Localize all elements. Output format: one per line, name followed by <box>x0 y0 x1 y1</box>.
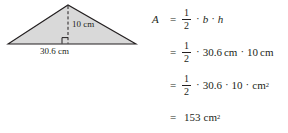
squared-unit-3: cm2 <box>252 79 269 91</box>
height-unit: cm <box>258 46 273 58</box>
fraction-denominator: 2 <box>183 20 190 31</box>
equals-sign-1: = <box>166 13 180 25</box>
multiply-dot-2b: · <box>237 45 247 57</box>
area-variable: A <box>152 13 166 25</box>
area-computation: A = 1 2 · b · h = 1 2 · 30.6 cm · <box>152 0 288 133</box>
multiply-dot-1a: · <box>193 12 203 24</box>
base-value: 30.6 <box>203 46 222 58</box>
fraction-numerator: 1 <box>183 41 190 52</box>
equation-line-2: = 1 2 · 30.6 cm · 10 cm <box>152 39 274 65</box>
equals-sign-4: = <box>166 111 180 123</box>
multiply-dot-3a: · <box>193 78 203 90</box>
multiply-dot-3c: · <box>243 78 253 90</box>
one-half-fraction-2: 1 2 <box>182 41 191 64</box>
base-value: 30.6 <box>203 79 222 91</box>
equation-line-3: = 1 2 · 30.6 · 10 · cm2 <box>152 72 269 98</box>
fraction-denominator: 2 <box>183 86 190 97</box>
height-value: 10 <box>232 79 243 91</box>
equals-sign-3: = <box>166 79 180 91</box>
one-half-fraction-1: 1 2 <box>182 8 191 31</box>
multiply-dot-3b: · <box>222 78 232 90</box>
base-label: 30.6 cm <box>40 46 69 56</box>
equation-line-1: A = 1 2 · b · h <box>152 6 223 32</box>
figure-page: 10 cm 30.6 cm A = 1 2 · b · h = 1 2 <box>0 0 288 133</box>
height-variable: h <box>218 13 224 25</box>
one-half-fraction-3: 1 2 <box>182 74 191 97</box>
fraction-numerator: 1 <box>183 8 190 19</box>
fraction-numerator: 1 <box>183 74 190 85</box>
equals-sign-2: = <box>166 46 180 58</box>
multiply-dot-2a: · <box>193 45 203 57</box>
area-result-value: 153 <box>180 111 201 123</box>
triangle-diagram <box>0 0 146 60</box>
multiply-dot-1b: · <box>208 12 218 24</box>
unit-cm: cm <box>204 111 217 123</box>
base-unit: cm <box>222 46 237 58</box>
triangle-figure: 10 cm 30.6 cm <box>0 0 146 133</box>
fraction-denominator: 2 <box>183 53 190 64</box>
height-label: 10 cm <box>72 19 94 29</box>
height-value: 10 <box>247 46 258 58</box>
unit-cm: cm <box>252 79 265 91</box>
squared-unit-4: cm2 <box>201 111 221 123</box>
equation-line-4: = 153 cm2 <box>152 104 220 130</box>
